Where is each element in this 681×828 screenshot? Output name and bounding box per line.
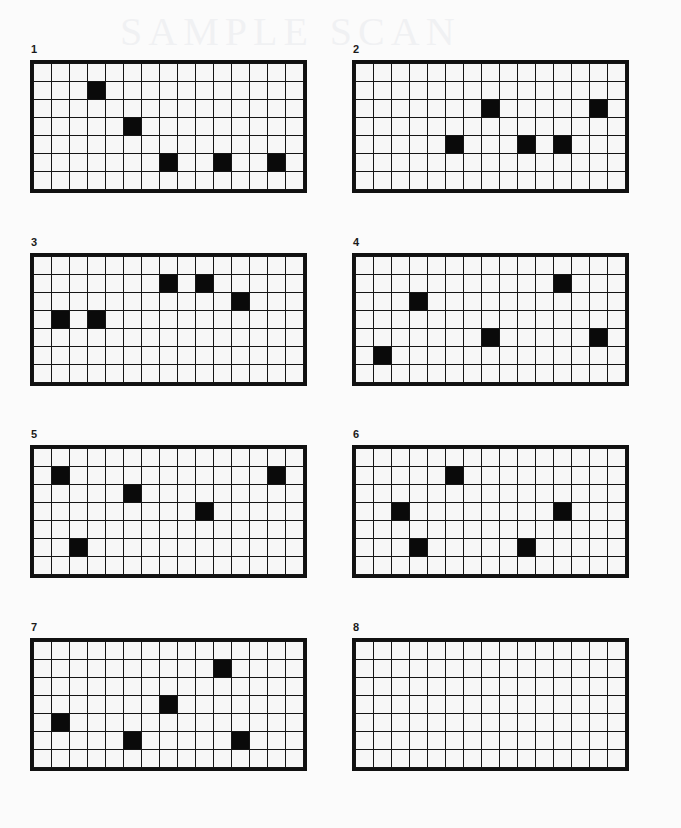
grid-cell-empty[interactable] bbox=[482, 485, 500, 503]
grid-cell-empty[interactable] bbox=[392, 118, 410, 136]
grid-cell-empty[interactable] bbox=[392, 136, 410, 154]
grid-cell-empty[interactable] bbox=[88, 714, 106, 732]
grid-cell-empty[interactable] bbox=[178, 172, 196, 190]
grid-cell-empty[interactable] bbox=[464, 257, 482, 275]
grid-cell-empty[interactable] bbox=[34, 714, 52, 732]
grid-cell-empty[interactable] bbox=[446, 347, 464, 365]
grid-cell-empty[interactable] bbox=[500, 557, 518, 575]
grid-cell-empty[interactable] bbox=[196, 714, 214, 732]
grid-cell-empty[interactable] bbox=[410, 82, 428, 100]
grid-cell-empty[interactable] bbox=[590, 64, 608, 82]
grid-cell-empty[interactable] bbox=[446, 293, 464, 311]
grid-cell-empty[interactable] bbox=[178, 275, 196, 293]
grid-cell-empty[interactable] bbox=[178, 521, 196, 539]
grid-cell-empty[interactable] bbox=[590, 714, 608, 732]
grid-cell-empty[interactable] bbox=[268, 732, 286, 750]
grid-cell-empty[interactable] bbox=[392, 275, 410, 293]
grid-cell-empty[interactable] bbox=[536, 750, 554, 768]
grid-cell-empty[interactable] bbox=[374, 82, 392, 100]
grid-cell-empty[interactable] bbox=[106, 365, 124, 383]
grid-cell-empty[interactable] bbox=[34, 678, 52, 696]
grid-cell-empty[interactable] bbox=[52, 275, 70, 293]
grid-cell-empty[interactable] bbox=[106, 750, 124, 768]
grid-cell-empty[interactable] bbox=[608, 696, 626, 714]
grid-cell-empty[interactable] bbox=[34, 275, 52, 293]
grid-cell-empty[interactable] bbox=[410, 118, 428, 136]
grid-cell-empty[interactable] bbox=[34, 521, 52, 539]
grid-cell-empty[interactable] bbox=[232, 82, 250, 100]
grid-cell-empty[interactable] bbox=[142, 521, 160, 539]
grid-cell-empty[interactable] bbox=[374, 521, 392, 539]
grid-cell-empty[interactable] bbox=[124, 503, 142, 521]
grid-cell-empty[interactable] bbox=[554, 154, 572, 172]
grid-cell-empty[interactable] bbox=[124, 100, 142, 118]
grid-cell-empty[interactable] bbox=[608, 82, 626, 100]
grid-cell-empty[interactable] bbox=[500, 293, 518, 311]
grid-cell-empty[interactable] bbox=[572, 714, 590, 732]
grid-cell-empty[interactable] bbox=[554, 714, 572, 732]
grid-cell-empty[interactable] bbox=[196, 660, 214, 678]
grid-cell-empty[interactable] bbox=[356, 642, 374, 660]
grid-cell-empty[interactable] bbox=[464, 485, 482, 503]
grid-cell-empty[interactable] bbox=[124, 136, 142, 154]
grid-cell-empty[interactable] bbox=[250, 311, 268, 329]
grid-cell-empty[interactable] bbox=[374, 696, 392, 714]
grid-cell-empty[interactable] bbox=[70, 257, 88, 275]
grid-cell-empty[interactable] bbox=[160, 642, 178, 660]
grid-cell-empty[interactable] bbox=[34, 557, 52, 575]
grid-cell-empty[interactable] bbox=[142, 154, 160, 172]
grid-cell-empty[interactable] bbox=[590, 539, 608, 557]
grid-cell-empty[interactable] bbox=[106, 311, 124, 329]
grid-cell-empty[interactable] bbox=[410, 521, 428, 539]
grid-cell-empty[interactable] bbox=[518, 557, 536, 575]
grid-cell-empty[interactable] bbox=[214, 172, 232, 190]
grid-cell-empty[interactable] bbox=[518, 172, 536, 190]
grid-cell-empty[interactable] bbox=[52, 696, 70, 714]
grid-cell-empty[interactable] bbox=[536, 449, 554, 467]
grid-cell-empty[interactable] bbox=[286, 642, 304, 660]
grid-cell-empty[interactable] bbox=[160, 539, 178, 557]
grid-cell-empty[interactable] bbox=[608, 485, 626, 503]
grid-cell-empty[interactable] bbox=[500, 503, 518, 521]
grid-cell-empty[interactable] bbox=[410, 660, 428, 678]
grid-cell-empty[interactable] bbox=[500, 118, 518, 136]
grid-cell-empty[interactable] bbox=[590, 750, 608, 768]
grid-cell-empty[interactable] bbox=[446, 678, 464, 696]
grid-cell-empty[interactable] bbox=[572, 660, 590, 678]
grid-cell-empty[interactable] bbox=[536, 660, 554, 678]
grid-cell-empty[interactable] bbox=[428, 100, 446, 118]
grid-cell-empty[interactable] bbox=[446, 696, 464, 714]
grid-cell-empty[interactable] bbox=[410, 257, 428, 275]
grid-cell-empty[interactable] bbox=[52, 557, 70, 575]
grid-cell-empty[interactable] bbox=[142, 660, 160, 678]
grid-cell-empty[interactable] bbox=[572, 82, 590, 100]
grid-cell-empty[interactable] bbox=[518, 311, 536, 329]
grid-cell-empty[interactable] bbox=[590, 678, 608, 696]
grid-cell-empty[interactable] bbox=[500, 539, 518, 557]
grid-cell-empty[interactable] bbox=[52, 257, 70, 275]
grid-cell-empty[interactable] bbox=[178, 732, 196, 750]
grid-cell-filled[interactable] bbox=[124, 732, 142, 750]
grid-cell-empty[interactable] bbox=[286, 118, 304, 136]
grid-cell-empty[interactable] bbox=[608, 154, 626, 172]
grid-cell-empty[interactable] bbox=[482, 118, 500, 136]
grid-cell-empty[interactable] bbox=[88, 750, 106, 768]
grid-cell-empty[interactable] bbox=[392, 365, 410, 383]
grid-cell-empty[interactable] bbox=[52, 365, 70, 383]
grid-cell-empty[interactable] bbox=[536, 311, 554, 329]
grid-cell-empty[interactable] bbox=[34, 750, 52, 768]
grid-cell-empty[interactable] bbox=[178, 696, 196, 714]
grid-cell-empty[interactable] bbox=[142, 82, 160, 100]
grid-cell-empty[interactable] bbox=[446, 750, 464, 768]
grid-cell-empty[interactable] bbox=[106, 329, 124, 347]
grid-cell-empty[interactable] bbox=[34, 539, 52, 557]
grid-cell-empty[interactable] bbox=[70, 449, 88, 467]
grid-cell-empty[interactable] bbox=[482, 365, 500, 383]
grid-cell-empty[interactable] bbox=[572, 257, 590, 275]
grid-cell-filled[interactable] bbox=[214, 660, 232, 678]
grid-cell-empty[interactable] bbox=[214, 642, 232, 660]
grid-cell-empty[interactable] bbox=[374, 732, 392, 750]
grid-cell-empty[interactable] bbox=[392, 485, 410, 503]
grid-cell-empty[interactable] bbox=[428, 732, 446, 750]
grid-cell-empty[interactable] bbox=[536, 732, 554, 750]
